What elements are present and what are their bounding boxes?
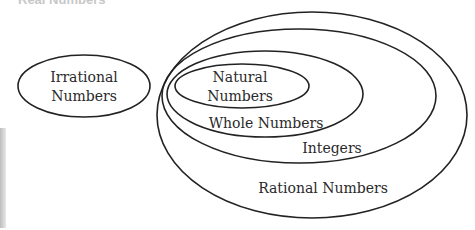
natural-label-line1: Natural	[213, 69, 268, 85]
venn-diagram: Real Numbers Irrational Numbers Natural …	[0, 0, 475, 230]
irrational-label-line1: Irrational	[50, 69, 118, 85]
integers-set-ellipse	[162, 29, 436, 163]
whole-label: Whole Numbers	[209, 115, 324, 131]
rational-label: Rational Numbers	[258, 180, 388, 196]
natural-label-line2: Numbers	[207, 88, 273, 104]
irrational-set-ellipse	[18, 55, 150, 117]
irrational-label-line2: Numbers	[51, 88, 117, 104]
diagram-title: Real Numbers	[18, 0, 105, 7]
integers-label: Integers	[302, 140, 362, 156]
real-numbers-diagram: Real Numbers Irrational Numbers Natural …	[0, 0, 475, 230]
